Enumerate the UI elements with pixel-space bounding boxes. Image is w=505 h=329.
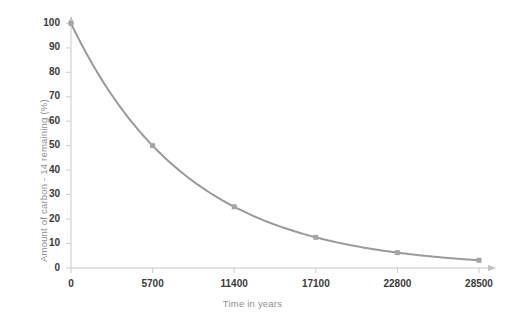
data-point-marker [69, 21, 74, 26]
y-tick-label: 20 [30, 213, 60, 224]
data-point-marker [232, 204, 237, 209]
y-tick-label: 90 [30, 41, 60, 52]
x-tick-label: 28500 [449, 278, 505, 289]
decay-curve-line [71, 23, 479, 260]
x-tick-label: 22800 [367, 278, 427, 289]
data-point-marker [313, 235, 318, 240]
y-tick-label: 30 [30, 188, 60, 199]
data-point-marker [395, 250, 400, 255]
data-point-marker [477, 258, 482, 263]
x-tick-label: 0 [41, 278, 101, 289]
x-axis-title: Time in years [0, 298, 505, 309]
y-tick-label: 100 [30, 17, 60, 28]
x-tick-label: 17100 [286, 278, 346, 289]
y-tick-label: 60 [30, 115, 60, 126]
x-tick-label: 5700 [123, 278, 183, 289]
x-axis-arrow-icon [488, 265, 496, 271]
data-point-markers [69, 21, 482, 263]
y-tick-label: 80 [30, 66, 60, 77]
data-point-marker [150, 143, 155, 148]
x-axis-ticks [71, 268, 479, 273]
y-tick-label: 40 [30, 164, 60, 175]
decay-chart: Amount of carbon - 14 remaining (%) Time… [0, 0, 505, 329]
y-tick-label: 0 [30, 262, 60, 273]
y-axis-ticks [66, 23, 71, 268]
y-tick-label: 10 [30, 237, 60, 248]
y-tick-label: 70 [30, 90, 60, 101]
x-tick-label: 11400 [204, 278, 264, 289]
y-tick-label: 50 [30, 139, 60, 150]
